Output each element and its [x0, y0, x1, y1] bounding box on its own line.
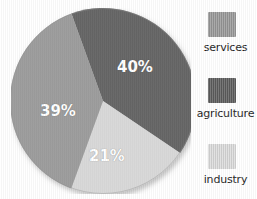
pie-chart-svg: [11, 8, 191, 194]
pie-slice-value-industry: 21%: [89, 147, 125, 165]
legend-label-industry: industry: [194, 173, 257, 186]
legend-swatch-wrap-industry: [194, 144, 257, 170]
pie-slice-value-agriculture: 40%: [117, 58, 153, 76]
legend-swatch-services: [208, 12, 236, 37]
legend-item-agriculture[interactable]: agriculture: [194, 78, 257, 120]
legend-item-services[interactable]: services: [194, 12, 257, 54]
pie-chart-plot-area: 40% 39% 21%: [11, 8, 191, 194]
pie-chart-figure: 40% 39% 21% services agriculture industr…: [0, 0, 257, 199]
legend-swatch-agriculture: [208, 78, 236, 103]
legend-swatch-industry: [208, 144, 236, 169]
legend-swatch-wrap-agriculture: [194, 78, 257, 104]
pie-slice-value-services: 39%: [40, 102, 76, 120]
chart-legend: services agriculture industry: [194, 0, 257, 199]
legend-label-services: services: [194, 41, 257, 54]
pie-texture-overlay: [11, 8, 191, 194]
legend-item-industry[interactable]: industry: [194, 144, 257, 186]
legend-label-agriculture: agriculture: [194, 107, 257, 120]
legend-swatch-wrap-services: [194, 12, 257, 38]
